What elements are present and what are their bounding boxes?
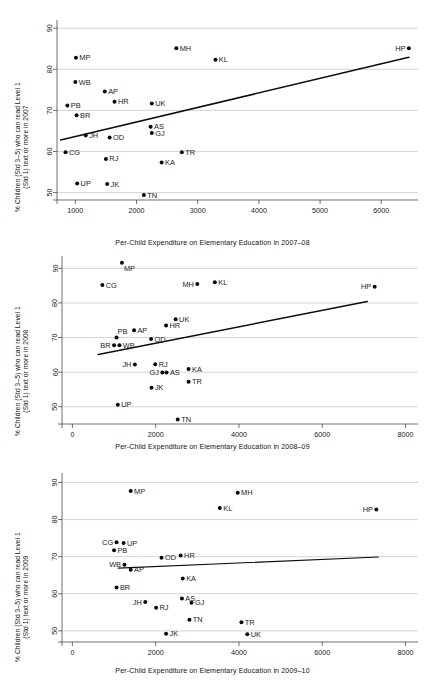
y-tick-label: 90	[51, 478, 60, 486]
y-tick-label: 70	[51, 553, 60, 561]
data-point-label: UK	[155, 99, 165, 108]
data-point-label: HR	[169, 321, 180, 330]
data-point-label: CG	[106, 281, 117, 290]
y-tick-label: 60	[46, 147, 55, 155]
data-point-label: CG	[69, 148, 80, 157]
x-tick-label: 8000	[398, 430, 414, 439]
x-tick-label: 4000	[251, 206, 267, 215]
data-point	[104, 157, 108, 161]
data-point	[150, 101, 154, 105]
y-tick-label: 90	[51, 264, 60, 272]
data-point-label: AS	[170, 368, 180, 377]
data-point-label: TR	[185, 148, 195, 157]
data-point	[115, 540, 119, 544]
data-point	[164, 323, 168, 327]
x-tick-label: 3000	[190, 206, 206, 215]
data-point-label: MP	[124, 264, 135, 273]
data-point	[103, 89, 107, 93]
data-point	[129, 489, 133, 493]
data-point	[64, 150, 68, 154]
data-point-label: KA	[192, 365, 202, 374]
data-point	[75, 182, 79, 186]
data-point-label: TN	[193, 615, 203, 624]
data-point	[239, 620, 243, 624]
data-point	[164, 632, 168, 636]
data-point	[115, 585, 119, 589]
figure-page: % Children (Std 3–5) who can read Level …	[0, 0, 425, 690]
data-point	[84, 133, 88, 137]
data-point	[112, 343, 116, 347]
x-tick-label: 2000	[148, 648, 164, 657]
data-point-label: JK	[111, 180, 120, 189]
data-point-label: MP	[134, 487, 145, 496]
y-tick-label: 50	[51, 403, 60, 411]
data-point-label: OD	[155, 335, 166, 344]
data-point	[74, 56, 78, 60]
chart-panel-2008: % Children (Std 3–5) who can read Level …	[0, 230, 425, 460]
x-tick-label: 1000	[67, 206, 83, 215]
data-point	[187, 380, 191, 384]
x-tick-label: 2000	[148, 430, 164, 439]
data-point-label: PB	[118, 327, 128, 336]
y-axis-label-line2: (Std 1) text or more in 2007	[22, 82, 30, 212]
data-point	[143, 600, 147, 604]
y-axis-label-2: % Children (Std 3–5) who can read Level …	[14, 532, 30, 662]
data-point-label: TR	[192, 377, 202, 386]
y-tick-label: 50	[46, 189, 55, 197]
data-point-label: MP	[79, 53, 90, 62]
data-point	[129, 568, 133, 572]
data-point	[149, 125, 153, 129]
x-tick-label: 6000	[373, 206, 389, 215]
data-point	[181, 577, 185, 581]
x-tick-label: 5000	[312, 206, 328, 215]
data-point	[179, 554, 183, 558]
data-point	[75, 113, 79, 117]
data-point	[122, 541, 126, 545]
data-point-label: UK	[179, 315, 189, 324]
y-tick-label: 60	[51, 590, 60, 598]
data-point	[154, 606, 158, 610]
data-point	[174, 46, 178, 50]
data-point	[165, 370, 169, 374]
data-point	[176, 418, 180, 422]
data-point	[160, 556, 164, 560]
data-point	[180, 597, 184, 601]
data-point-label: AP	[137, 326, 147, 335]
x-tick-label: 6000	[314, 648, 330, 657]
y-axis-label-1: % Children (Std 3–5) who can read Level …	[14, 306, 30, 436]
data-point	[116, 403, 120, 407]
x-tick-label: 0	[70, 648, 74, 657]
y-axis-label-line1: % Children (Std 3–5) who can read Level …	[14, 82, 22, 212]
y-tick-label: 80	[46, 65, 55, 73]
data-point-label: JH	[133, 598, 142, 607]
data-point-label: KL	[218, 278, 227, 287]
data-point-label: JH	[89, 131, 98, 140]
data-point	[213, 280, 217, 284]
data-point-label: MH	[241, 488, 253, 497]
data-point	[187, 618, 191, 622]
data-point-label: UP	[127, 539, 137, 548]
data-point-label: WB	[109, 560, 121, 569]
data-point	[132, 328, 136, 332]
data-point	[195, 282, 199, 286]
x-tick-label: 6000	[314, 430, 330, 439]
data-point	[407, 46, 411, 50]
data-point-label: WB	[79, 78, 91, 87]
data-point	[108, 136, 112, 140]
x-tick-label: 4000	[231, 430, 247, 439]
scatter-plot-0: 5060708090100020003000400050006000MPMHKL…	[0, 0, 425, 230]
data-point-label: HR	[118, 97, 129, 106]
data-point-label: KL	[223, 504, 232, 513]
data-point-label: CG	[102, 538, 113, 547]
x-tick-label: 8000	[398, 648, 414, 657]
data-point-label: UK	[251, 630, 261, 639]
chart-panel-2009: % Children (Std 3–5) who can read Level …	[0, 460, 425, 690]
data-point-label: MH	[182, 280, 194, 289]
data-point-label: WB	[123, 341, 135, 350]
y-axis-label-line1: % Children (Std 3–5) who can read Level …	[14, 306, 22, 436]
data-point	[73, 80, 77, 84]
data-point-label: AP	[108, 87, 118, 96]
data-point-label: OD	[113, 133, 124, 142]
data-point-label: MH	[180, 44, 192, 53]
data-point-label: GJ	[149, 368, 159, 377]
